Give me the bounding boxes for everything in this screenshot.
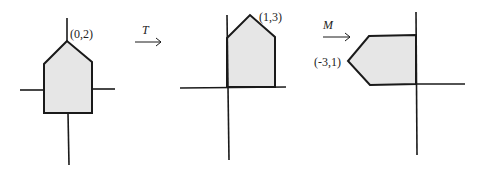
arrow-t: T xyxy=(135,23,161,46)
pentagon-shape xyxy=(44,41,92,113)
point-label: (1,3) xyxy=(259,10,282,24)
panel-rotated: (-3,1) xyxy=(314,12,465,155)
x-axis xyxy=(180,87,286,88)
transformation-diagram: (0,2) T (1,3) M (-3,1) xyxy=(0,0,481,171)
arrow-m: M xyxy=(322,18,350,41)
y-axis-lower xyxy=(68,113,69,165)
panel-translated: (1,3) xyxy=(180,10,286,160)
pentagon-shape xyxy=(348,35,416,85)
panel-original: (0,2) xyxy=(20,18,115,165)
pentagon-shape xyxy=(227,15,275,87)
point-label: (0,2) xyxy=(70,27,93,41)
arrow-label: M xyxy=(322,18,334,32)
arrow-label: T xyxy=(142,23,150,37)
point-label: (-3,1) xyxy=(314,55,341,69)
